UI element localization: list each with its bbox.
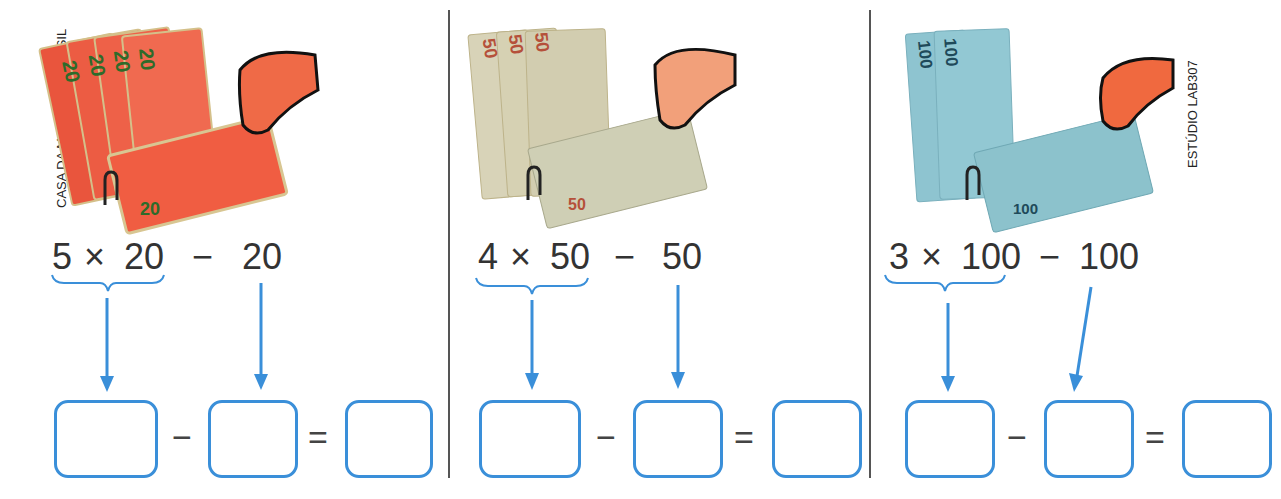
answer-box-result[interactable] (345, 400, 433, 478)
panel-100-reais: 100 100 100 3 × 100 − 100 − = (871, 0, 1281, 499)
answer-equals: = (308, 418, 328, 457)
answer-box-product[interactable] (905, 400, 995, 478)
panel-20-reais: 20 20 20 20 20 5 × 20 − 20 − = (0, 0, 448, 499)
panel-50-reais: 50 50 50 50 4 × 50 − 50 − = (450, 0, 869, 499)
answer-minus: − (172, 418, 192, 457)
answer-box-result[interactable] (1182, 400, 1272, 478)
answer-box-result[interactable] (772, 400, 862, 478)
arrow-down-icon (254, 374, 268, 390)
underbrace (885, 275, 1005, 291)
answer-equals: = (734, 418, 754, 457)
underbrace (476, 278, 588, 294)
arrow-down-icon (671, 372, 685, 389)
underbrace (52, 275, 164, 291)
arrow-down-icon (100, 376, 114, 392)
answer-box-product[interactable] (54, 400, 158, 478)
answer-box-subtrahend[interactable] (633, 400, 723, 478)
answer-minus: − (1007, 418, 1027, 457)
answer-box-subtrahend[interactable] (208, 400, 298, 478)
arrow-down-icon (525, 373, 539, 390)
arrow-down-icon (941, 376, 955, 392)
answer-box-subtrahend[interactable] (1044, 400, 1134, 478)
answer-minus: − (596, 418, 616, 457)
answer-equals: = (1145, 418, 1165, 457)
arrow-down-icon (1069, 373, 1083, 392)
answer-box-product[interactable] (479, 400, 581, 478)
